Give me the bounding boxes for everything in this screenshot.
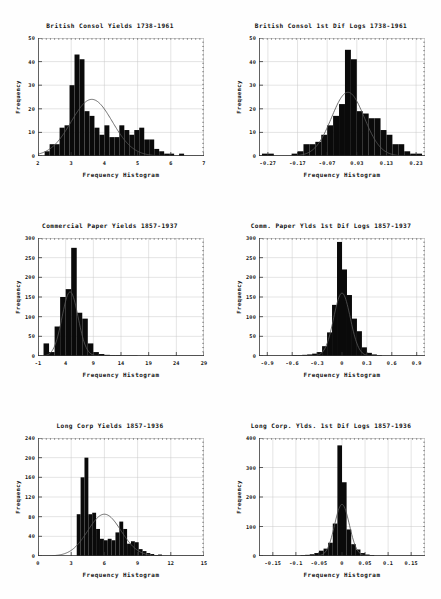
x-tick-label: 0.6 bbox=[387, 360, 397, 366]
x-tick-label: -0.6 bbox=[286, 360, 299, 366]
x-tick-label: 0 bbox=[340, 360, 343, 366]
y-tick-label: 50 bbox=[249, 35, 256, 41]
x-tick-label: 6 bbox=[169, 160, 172, 166]
x-tick-label: 6 bbox=[103, 560, 106, 566]
x-tick-labels: 03691215 bbox=[38, 558, 204, 570]
panel-0: British Consol Yields 1738-1961 Frequenc… bbox=[0, 0, 220, 199]
y-tick-label: 0 bbox=[253, 553, 256, 559]
histogram-bar bbox=[339, 104, 345, 156]
y-tick-label: 100 bbox=[246, 314, 256, 320]
x-tick-label: 0.3 bbox=[362, 360, 372, 366]
histogram-bar bbox=[119, 522, 123, 556]
histogram-bar bbox=[99, 135, 104, 156]
x-tick-labels: -14914192429 bbox=[38, 358, 204, 370]
x-tick-label: 0.9 bbox=[412, 360, 422, 366]
histogram-bar bbox=[357, 331, 362, 356]
histogram-bar bbox=[55, 144, 60, 156]
x-axis-label: Frequency Histogram bbox=[259, 172, 425, 178]
x-tick-label: 0.05 bbox=[358, 560, 371, 566]
histogram-bar bbox=[347, 295, 352, 356]
x-tick-label: 15 bbox=[201, 560, 208, 566]
x-tick-label: 3 bbox=[70, 160, 73, 166]
histogram-bar bbox=[342, 269, 347, 356]
x-tick-label: 3 bbox=[70, 560, 73, 566]
y-tick-label: 50 bbox=[28, 333, 35, 339]
histogram-bar bbox=[108, 539, 112, 556]
y-tick-label: 300 bbox=[246, 465, 256, 471]
x-tick-label: -1 bbox=[35, 360, 42, 366]
histogram-bar bbox=[333, 116, 339, 156]
y-tick-label: 250 bbox=[246, 255, 256, 261]
x-tick-label: 0.03 bbox=[350, 160, 363, 166]
y-tick-label: 300 bbox=[25, 235, 35, 241]
x-tick-label: 7 bbox=[202, 160, 205, 166]
histogram-bar bbox=[112, 540, 116, 556]
histogram-bar bbox=[398, 144, 404, 156]
histogram-svg bbox=[38, 438, 204, 556]
y-tick-label: 30 bbox=[249, 82, 256, 88]
x-tick-label: 24 bbox=[173, 360, 180, 366]
histogram-bar bbox=[114, 137, 119, 156]
x-tick-labels: 234567 bbox=[38, 158, 204, 170]
x-tick-label: -0.15 bbox=[265, 560, 282, 566]
y-tick-label: 200 bbox=[25, 455, 35, 461]
y-tick-label: 100 bbox=[25, 314, 35, 320]
histogram-bar bbox=[88, 514, 92, 556]
y-tick-label: 0 bbox=[253, 153, 256, 159]
x-tick-label: 0.15 bbox=[405, 560, 418, 566]
plot-area bbox=[259, 438, 425, 556]
y-tick-labels: 050100150200250300 bbox=[235, 238, 256, 356]
histogram-bar bbox=[347, 529, 352, 556]
y-tick-label: 200 bbox=[246, 274, 256, 280]
panel-title: Long Corp. Ylds. 1st Dif Logs 1857-1936 bbox=[221, 422, 441, 429]
panel-title: British Consol Yields 1738-1961 bbox=[0, 22, 220, 29]
plot-area bbox=[38, 438, 204, 556]
x-tick-label: 29 bbox=[201, 360, 208, 366]
y-tick-label: 50 bbox=[249, 333, 256, 339]
plot-area bbox=[38, 38, 204, 156]
histogram-bar bbox=[381, 130, 387, 156]
x-tick-label: 0.1 bbox=[383, 560, 393, 566]
histogram-bar bbox=[337, 445, 342, 556]
histogram-bar bbox=[154, 149, 159, 156]
x-tick-labels: -0.9-0.6-0.300.30.60.9 bbox=[259, 358, 425, 370]
histogram-bar bbox=[131, 541, 135, 556]
y-tick-label: 120 bbox=[25, 494, 35, 500]
histogram-bar bbox=[77, 514, 81, 556]
histogram-bar bbox=[81, 477, 85, 556]
histogram-bar bbox=[104, 125, 109, 156]
x-tick-label: -0.05 bbox=[311, 560, 328, 566]
panel-1: British Consol 1st Dif Logs 1738-1961 Fr… bbox=[221, 0, 441, 199]
histogram-bar bbox=[109, 137, 114, 156]
panel-4: Long Corp Yields 1857-1936 Frequency 040… bbox=[0, 400, 220, 599]
histogram-bar bbox=[71, 248, 77, 356]
histogram-bar bbox=[127, 544, 131, 556]
x-tick-label: -0.9 bbox=[261, 360, 274, 366]
histogram-bar bbox=[96, 529, 100, 556]
histogram-bar bbox=[89, 116, 94, 156]
y-tick-label: 0 bbox=[32, 153, 35, 159]
y-tick-label: 0 bbox=[253, 353, 256, 359]
y-tick-label: 150 bbox=[25, 294, 35, 300]
x-tick-label: -0.07 bbox=[319, 160, 336, 166]
histogram-bar bbox=[88, 343, 94, 356]
y-tick-label: 200 bbox=[246, 494, 256, 500]
histogram-bar bbox=[65, 125, 70, 156]
y-tick-labels: 04080120160200240 bbox=[14, 438, 35, 556]
x-tick-label: 0.13 bbox=[380, 160, 393, 166]
y-tick-label: 300 bbox=[246, 235, 256, 241]
y-tick-label: 250 bbox=[25, 255, 35, 261]
histogram-bar bbox=[115, 532, 119, 556]
x-tick-label: 5 bbox=[136, 160, 139, 166]
panel-title: British Consol 1st Dif Logs 1738-1961 bbox=[221, 22, 441, 29]
y-tick-label: 0 bbox=[32, 553, 35, 559]
histogram-bar bbox=[144, 139, 149, 156]
histogram-svg bbox=[259, 238, 425, 356]
histogram-svg bbox=[259, 438, 425, 556]
x-tick-labels: -0.15-0.1-0.0500.050.10.15 bbox=[259, 558, 425, 570]
histogram-bar bbox=[60, 128, 65, 156]
histogram-bar bbox=[75, 55, 80, 156]
histogram-bar bbox=[327, 125, 333, 156]
x-tick-label: -0.17 bbox=[289, 160, 306, 166]
y-tick-label: 20 bbox=[249, 106, 256, 112]
